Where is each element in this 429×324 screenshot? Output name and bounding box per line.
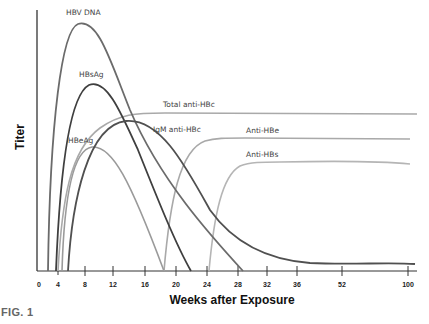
curve-anti-hbs	[209, 161, 410, 271]
figure-label: FIG. 1	[1, 306, 33, 318]
curve-total-anti-hbc	[58, 113, 417, 271]
curve-igm-anti-hbc	[68, 121, 415, 271]
hepatitis-b-serology-chart: 0 4 8 12 16 20 24 28 32 36 52 100 Weeks …	[0, 0, 429, 324]
x-axis-title: Weeks after Exposure	[169, 293, 294, 307]
tick-label: 12	[109, 281, 117, 288]
label-anti-hbe: Anti-HBe	[246, 126, 279, 135]
label-hbsag: HBsAg	[79, 70, 104, 79]
label-hbeag: HBeAg	[68, 136, 94, 145]
tick-label: 4	[56, 281, 60, 288]
y-axis-title: Titer	[13, 124, 27, 150]
tick-label: 16	[141, 281, 149, 288]
curve-hbeag	[62, 147, 164, 271]
curve-anti-hbe	[164, 138, 410, 271]
label-total-anti-hbc: Total anti-HBc	[162, 100, 215, 109]
tick-label: 0	[37, 281, 41, 288]
label-anti-hbs: Anti-HBs	[246, 150, 278, 159]
x-tick-labels: 0 4 8 12 16 20 24 28 32 36 52 100	[37, 281, 414, 288]
label-igm-anti-hbc: IgM anti-HBc	[153, 125, 201, 134]
tick-label: 32	[263, 281, 271, 288]
label-hbv-dna: HBV DNA	[66, 8, 101, 17]
tick-label: 52	[338, 281, 346, 288]
curve-hbsag	[56, 84, 191, 271]
tick-label: 100	[402, 281, 414, 288]
tick-label: 36	[293, 281, 301, 288]
tick-label: 20	[172, 281, 180, 288]
tick-label: 8	[83, 281, 87, 288]
tick-label: 24	[203, 281, 211, 288]
tick-label: 28	[234, 281, 242, 288]
